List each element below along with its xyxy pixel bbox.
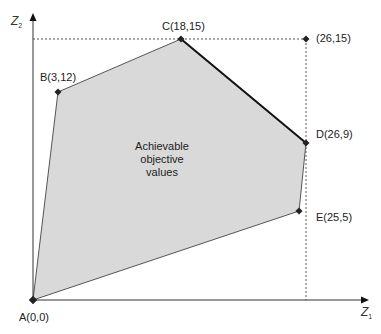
y-axis-label: Z2 xyxy=(11,15,22,29)
region-label-line-2: objective xyxy=(117,153,207,166)
point-label-a: A(0,0) xyxy=(19,312,49,323)
point-label-e: E(25,5) xyxy=(316,212,352,223)
x-axis-label: Z1 xyxy=(361,306,372,320)
region-label: Achievable objective values xyxy=(117,140,207,179)
point-label-c: C(18,15) xyxy=(162,21,205,32)
point-label-utopia: (26,15) xyxy=(316,33,351,44)
region-label-line-3: values xyxy=(117,166,207,179)
y-axis-arrow-icon xyxy=(30,13,37,21)
point-label-b: B(3,12) xyxy=(40,72,76,83)
point-label-d: D(26,9) xyxy=(316,129,353,140)
marker-u xyxy=(302,35,309,42)
x-axis-arrow-icon xyxy=(361,297,369,304)
region-label-line-1: Achievable xyxy=(117,140,207,153)
y-axis-label-subscript: 2 xyxy=(18,22,22,29)
x-axis-label-subscript: 1 xyxy=(368,313,372,320)
